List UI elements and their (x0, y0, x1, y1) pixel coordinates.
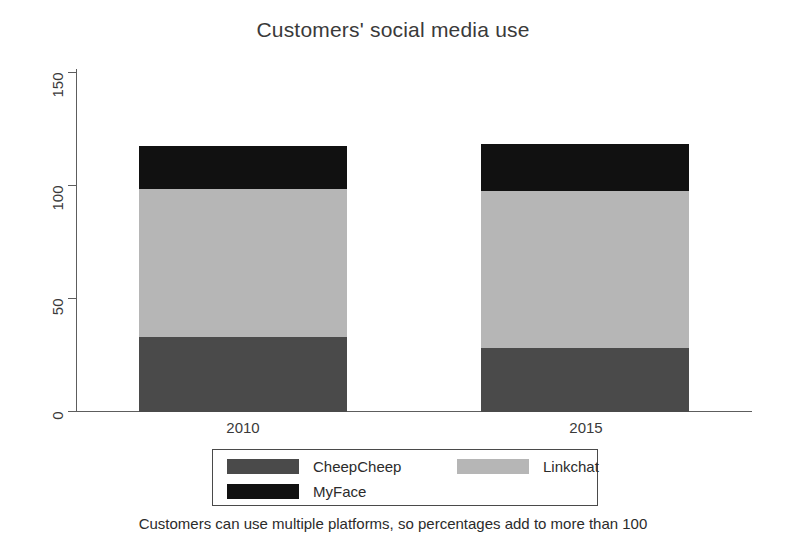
page-title: Customers' social media use (0, 18, 786, 42)
legend-item-linkchat[interactable]: Linkchat (457, 458, 599, 475)
legend-label-cheepcheep: CheepCheep (313, 458, 401, 475)
chart-annotation: Customers can use multiple platforms, so… (0, 515, 786, 532)
legend-item-cheepcheep[interactable]: CheepCheep (227, 458, 401, 475)
legend-label-myface: MyFace (313, 483, 366, 500)
x-tick-label-2010: 2010 (173, 419, 313, 436)
y-tick-label-50: 50 (49, 299, 66, 359)
legend-item-myface[interactable]: MyFace (227, 483, 366, 500)
legend-swatch-icon-linkchat (457, 459, 529, 474)
bar-segment-cheepcheep-2015[interactable] (481, 348, 689, 412)
legend-label-linkchat: Linkchat (543, 458, 599, 475)
legend-swatch-icon-cheepcheep (227, 459, 299, 474)
y-tick-label-150: 150 (49, 73, 66, 133)
bar-segment-cheepcheep-2010[interactable] (139, 337, 347, 412)
bar-segment-myface-2015[interactable] (481, 144, 689, 190)
bar-segment-myface-2010[interactable] (139, 146, 347, 188)
y-tick-label-0: 0 (49, 412, 66, 472)
bar-2015[interactable] (481, 144, 689, 412)
x-tick-label-2015: 2015 (516, 419, 656, 436)
bar-segment-linkchat-2010[interactable] (139, 189, 347, 337)
bar-segment-linkchat-2015[interactable] (481, 191, 689, 348)
chart-figure: Customers' social media use 150 100 50 0… (0, 0, 786, 543)
plot-area (76, 60, 752, 412)
legend-swatch-icon-myface (227, 484, 299, 499)
legend: CheepCheep Linkchat MyFace (212, 449, 598, 506)
bar-2010[interactable] (139, 146, 347, 412)
y-tick-label-100: 100 (49, 186, 66, 246)
